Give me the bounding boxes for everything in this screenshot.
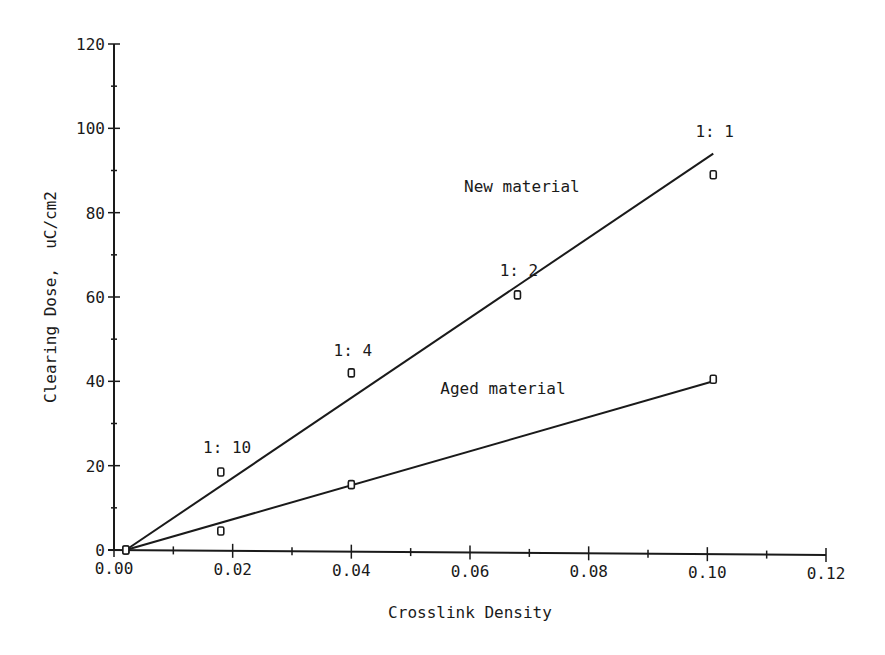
y-tick-label: 60 — [86, 288, 105, 307]
fit-lines — [126, 154, 713, 550]
data-point-marker — [348, 481, 354, 489]
data-point-marker — [710, 171, 716, 179]
axes: 0204060801001200.000.020.040.060.080.100… — [76, 35, 845, 583]
x-tick-label: 0.04 — [332, 561, 371, 580]
y-tick-label: 120 — [76, 35, 105, 54]
y-tick-label: 100 — [76, 119, 105, 138]
annotation-label: 1: 4 — [334, 341, 373, 360]
data-point-marker — [514, 291, 520, 299]
annotation-label: 1: 10 — [203, 438, 251, 457]
annotation-label: New material — [464, 177, 580, 196]
y-tick-label: 40 — [86, 372, 105, 391]
y-tick-label: 0 — [95, 541, 105, 560]
fit-line — [126, 154, 713, 550]
x-tick-label: 0.08 — [569, 562, 608, 581]
scatter-chart: 0204060801001200.000.020.040.060.080.100… — [0, 0, 885, 655]
annotations: New materialAged material1: 101: 41: 21:… — [203, 122, 734, 457]
x-tick-label: 0.02 — [213, 560, 252, 579]
data-point-marker — [348, 369, 354, 377]
y-axis-label: Clearing Dose, uC/cm2 — [41, 191, 60, 403]
data-points — [123, 171, 716, 554]
annotation-label: Aged material — [440, 379, 565, 398]
x-tick-label: 0.10 — [688, 563, 727, 582]
fit-line — [126, 381, 713, 550]
x-axis-label: Crosslink Density — [388, 603, 552, 622]
y-tick-label: 80 — [86, 204, 105, 223]
y-tick-label: 20 — [86, 457, 105, 476]
annotation-label: 1: 2 — [500, 261, 539, 280]
data-point-marker — [710, 375, 716, 383]
x-tick-label: 0.06 — [451, 562, 490, 581]
data-point-marker — [218, 468, 224, 476]
annotation-label: 1: 1 — [695, 122, 734, 141]
x-tick-label: 0.12 — [807, 564, 846, 583]
data-point-marker — [123, 546, 129, 554]
x-tick-label: 0.00 — [95, 559, 134, 578]
data-point-marker — [218, 527, 224, 535]
